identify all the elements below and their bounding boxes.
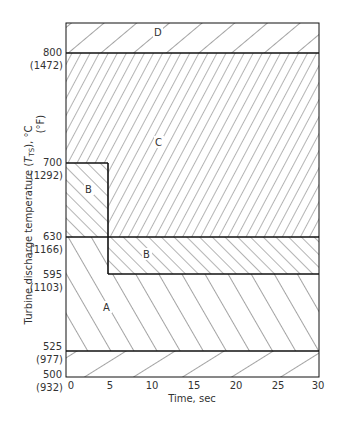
temperature-region-chart: D C B B A 800 (1472) 700 (1292) 630 (116… bbox=[0, 0, 345, 424]
label-d: D bbox=[154, 27, 162, 38]
ytick-700: 700 bbox=[43, 157, 62, 168]
ytick-525: 525 bbox=[43, 341, 62, 352]
ytick-595: 595 bbox=[43, 269, 62, 280]
label-a: A bbox=[103, 302, 110, 313]
region-b-lower bbox=[108, 237, 319, 274]
ytick-595-f: (1103) bbox=[30, 282, 63, 293]
ytick-800: 800 bbox=[43, 47, 62, 58]
xtick-5: 5 bbox=[107, 380, 113, 391]
ytick-630: 630 bbox=[43, 231, 62, 242]
xtick-25: 25 bbox=[272, 380, 285, 391]
label-c: C bbox=[155, 137, 162, 148]
region-d bbox=[66, 23, 319, 53]
y-axis-label-f: (°F) bbox=[35, 115, 46, 134]
ytick-525-f: (977) bbox=[36, 354, 63, 365]
xtick-15: 15 bbox=[188, 380, 201, 391]
label-b-upper: B bbox=[85, 184, 92, 195]
ytick-700-f: (1292) bbox=[30, 170, 63, 181]
xtick-10: 10 bbox=[146, 380, 159, 391]
ytick-800-f: (1472) bbox=[30, 60, 63, 71]
xtick-20: 20 bbox=[230, 380, 243, 391]
ytick-500-f: (932) bbox=[36, 382, 63, 393]
ytick-630-f: (1166) bbox=[30, 244, 63, 255]
region-bottom bbox=[66, 351, 319, 377]
xtick-30: 30 bbox=[312, 380, 325, 391]
region-b-upper bbox=[66, 163, 108, 237]
y-axis-label: Turbine discharge temperature (TTS), °C bbox=[23, 126, 36, 326]
xtick-0: 0 bbox=[68, 380, 74, 391]
x-axis-label: Time, sec bbox=[167, 393, 216, 404]
ytick-500: 500 bbox=[43, 369, 62, 380]
label-b-lower: B bbox=[143, 249, 150, 260]
